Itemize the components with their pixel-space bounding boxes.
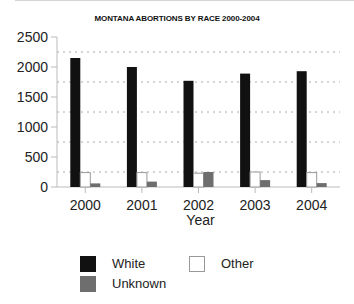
x-axis-label: Year xyxy=(186,212,215,228)
y-tick-label: 1000 xyxy=(17,119,48,135)
x-tick-label: 2004 xyxy=(296,197,327,213)
legend-swatch-unknown xyxy=(80,276,96,292)
bar-other xyxy=(80,173,90,187)
bar-other xyxy=(137,173,147,187)
legend-swatch-other xyxy=(189,256,205,272)
x-tick-label: 2003 xyxy=(240,197,271,213)
bar-chart: 0500100015002000250020002001200220032004… xyxy=(0,0,354,240)
x-tick-label: 2002 xyxy=(183,197,214,213)
legend-label-unknown: Unknown xyxy=(112,276,166,291)
y-tick-label: 500 xyxy=(25,149,49,165)
bar-unknown xyxy=(204,172,214,187)
bar-white xyxy=(240,74,250,187)
bar-white xyxy=(127,67,137,187)
bar-unknown xyxy=(147,182,157,187)
y-tick-label: 0 xyxy=(40,179,48,195)
x-tick-label: 2001 xyxy=(126,197,157,213)
bar-white xyxy=(184,81,194,187)
bar-unknown xyxy=(317,183,327,187)
legend-label-other: Other xyxy=(221,256,254,271)
bar-white xyxy=(297,71,307,187)
bar-unknown xyxy=(260,180,270,187)
legend-swatch-white xyxy=(80,256,96,272)
x-tick-label: 2000 xyxy=(70,197,101,213)
bar-other xyxy=(307,173,317,187)
y-tick-label: 1500 xyxy=(17,89,48,105)
bar-white xyxy=(70,58,80,187)
bar-other xyxy=(250,172,260,187)
bar-other xyxy=(194,173,204,187)
y-tick-label: 2500 xyxy=(17,29,48,45)
legend-label-white: White xyxy=(112,256,145,271)
bar-unknown xyxy=(90,183,100,187)
y-tick-label: 2000 xyxy=(17,59,48,75)
